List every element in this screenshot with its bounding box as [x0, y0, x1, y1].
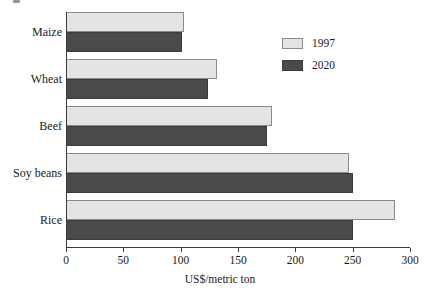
category-label: Maize	[2, 25, 62, 39]
bar[interactable]	[66, 32, 182, 52]
x-tick-mark	[295, 248, 296, 252]
x-tick-label: 200	[287, 253, 304, 267]
x-tick-mark	[123, 248, 124, 252]
x-tick-mark	[353, 248, 354, 252]
bar-group	[66, 12, 410, 52]
bar[interactable]	[66, 200, 395, 220]
category-label: Beef	[2, 119, 62, 133]
category-label: Rice	[2, 213, 62, 227]
bar[interactable]	[66, 153, 349, 173]
x-tick-mark	[238, 248, 239, 252]
bar[interactable]	[66, 126, 267, 146]
legend-label: 2020	[312, 59, 335, 72]
x-tick-mark	[181, 248, 182, 252]
bar-group	[66, 153, 410, 193]
x-axis-title: US$/metric ton	[0, 272, 432, 286]
category-axis-labels: MaizeWheatBeefSoy beansRice	[0, 12, 62, 247]
x-tick-label: 100	[172, 253, 189, 267]
category-label: Soy beans	[2, 166, 62, 180]
bar[interactable]	[66, 106, 272, 126]
bar[interactable]	[66, 173, 353, 193]
bar-group	[66, 106, 410, 146]
bar-group	[66, 200, 410, 240]
bar[interactable]	[66, 59, 217, 79]
x-tick-mark	[66, 248, 67, 252]
plot-area	[66, 12, 410, 247]
bar[interactable]	[66, 220, 353, 240]
x-tick-label: 250	[344, 253, 361, 267]
cropped-header-artifact	[13, 0, 20, 3]
chart-legend: 1997 2020	[282, 36, 335, 80]
category-label: Wheat	[2, 72, 62, 86]
bar[interactable]	[66, 12, 184, 32]
bar[interactable]	[66, 79, 208, 99]
x-axis-title-text: US$/metric ton	[185, 272, 256, 286]
light-gray-swatch-icon	[282, 38, 303, 49]
y-axis-line	[66, 12, 67, 248]
x-tick-label: 300	[401, 253, 418, 267]
bar-chart: MaizeWheatBeefSoy beansRice 050100150200…	[0, 0, 432, 298]
legend-label: 1997	[312, 37, 335, 50]
legend-item-2020[interactable]: 2020	[282, 58, 335, 73]
bar-group	[66, 59, 410, 99]
dark-gray-swatch-icon	[282, 60, 303, 71]
x-tick-label: 0	[63, 253, 69, 267]
x-tick-label: 150	[229, 253, 246, 267]
legend-item-1997[interactable]: 1997	[282, 36, 335, 51]
x-tick-mark	[410, 248, 411, 252]
x-tick-label: 50	[118, 253, 130, 267]
